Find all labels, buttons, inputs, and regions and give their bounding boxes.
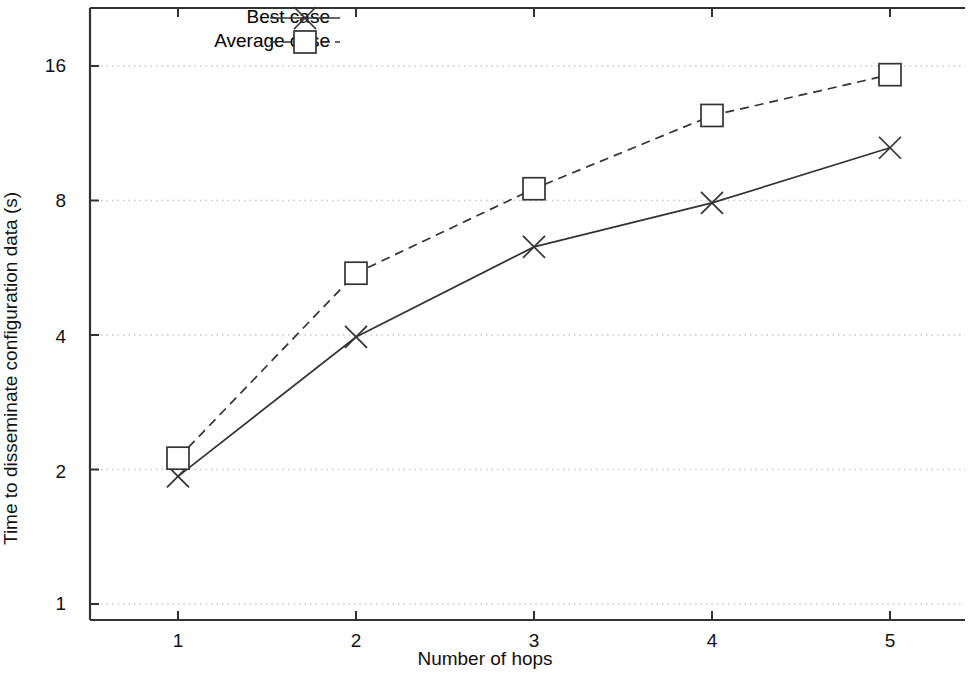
gridlines [90, 66, 965, 604]
chart-figure: Time to disseminate configuration data (… [0, 0, 970, 677]
axis-ticks [90, 8, 890, 620]
axis-frame [90, 8, 965, 620]
data-series-layer [167, 64, 901, 488]
plot-area [0, 0, 970, 677]
legend-symbols [270, 7, 340, 53]
